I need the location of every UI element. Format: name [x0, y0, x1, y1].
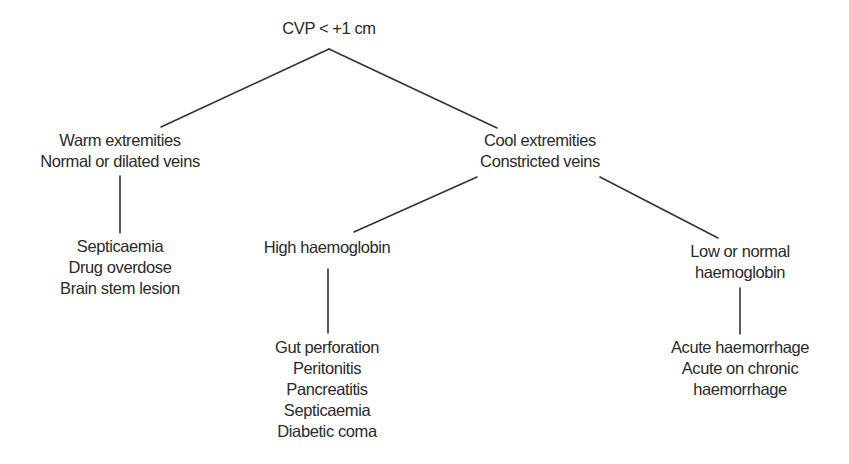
- edge-cool-to-high-hb: [354, 177, 477, 232]
- node-warm-extremities: Warm extremities Normal or dilated veins: [40, 130, 200, 172]
- node-line: haemoglobin: [690, 262, 789, 283]
- node-line: Low or normal: [690, 241, 789, 262]
- node-line: Cool extremities: [480, 130, 600, 151]
- node-low-haemoglobin: Low or normal haemoglobin: [690, 241, 789, 283]
- edge-root-to-warm: [161, 49, 329, 127]
- node-line: Septicaemia: [60, 236, 180, 257]
- node-high-haemoglobin: High haemoglobin: [264, 237, 391, 258]
- node-line: CVP < +1 cm: [282, 18, 375, 39]
- node-line: Septicaemia: [275, 400, 379, 421]
- node-line: Gut perforation: [275, 337, 379, 358]
- node-high-hb-causes: Gut perforation Peritonitis Pancreatitis…: [275, 337, 379, 442]
- node-line: Normal or dilated veins: [40, 151, 200, 172]
- node-line: Pancreatitis: [275, 379, 379, 400]
- node-warm-causes: Septicaemia Drug overdose Brain stem les…: [60, 236, 180, 299]
- node-line: Acute on chronic: [671, 358, 809, 379]
- node-line: Warm extremities: [40, 130, 200, 151]
- node-line: Constricted veins: [480, 151, 600, 172]
- node-line: Diabetic coma: [275, 421, 379, 442]
- node-line: Brain stem lesion: [60, 278, 180, 299]
- node-line: Drug overdose: [60, 257, 180, 278]
- node-line: haemorrhage: [671, 379, 809, 400]
- node-line: Peritonitis: [275, 358, 379, 379]
- root-node-cvp: CVP < +1 cm: [282, 18, 375, 39]
- node-line: Acute haemorrhage: [671, 337, 809, 358]
- edge-cool-to-low-hb: [600, 177, 718, 238]
- node-cool-extremities: Cool extremities Constricted veins: [480, 130, 600, 172]
- node-line: High haemoglobin: [264, 237, 391, 258]
- node-low-hb-causes: Acute haemorrhage Acute on chronic haemo…: [671, 337, 809, 400]
- edge-root-to-cool: [329, 49, 497, 128]
